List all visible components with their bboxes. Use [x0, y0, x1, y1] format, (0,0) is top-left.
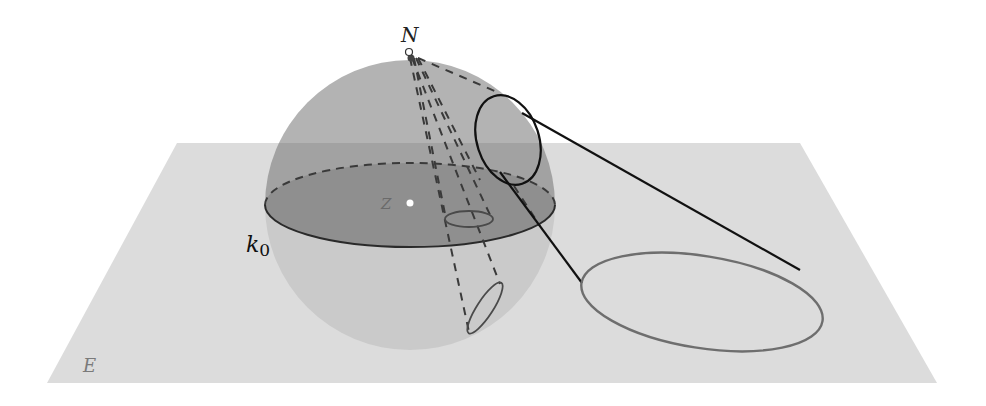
- north-pole-marker: [406, 49, 413, 56]
- label-center: Z: [380, 195, 392, 213]
- center-point: [407, 200, 414, 207]
- label-north-pole: N: [400, 23, 420, 47]
- label-plane: E: [82, 355, 96, 376]
- stereographic-projection-diagram: N Z k0 E: [0, 0, 986, 406]
